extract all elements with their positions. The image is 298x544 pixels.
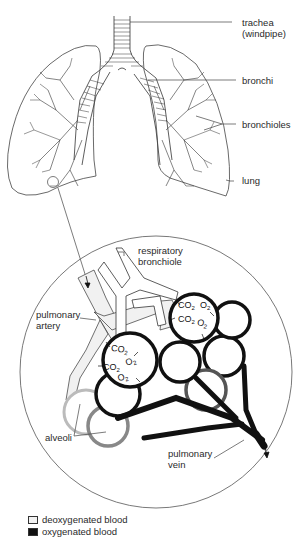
co2-label: CO2 [178,300,195,313]
legend-item-deoxygenated: deoxygenated blood [28,514,128,525]
respiratory-bronchiole-label-1: respiratory [138,245,183,256]
bronchioles-leader [196,116,236,130]
left-lung-outline [7,45,100,195]
legend-label: oxygenated blood [42,526,117,537]
lung-label: lung [242,175,260,186]
pulmonary-artery-label-1: pulmonary [36,309,80,320]
co2-label: CO2 [110,343,128,358]
legend-item-oxygenated: oxygenated blood [28,526,117,537]
alveoli-label: alveoli [45,432,72,443]
trachea-label: trachea [242,17,274,28]
pulmonary-vein-leader [214,440,244,458]
lung-leader [226,180,234,181]
respiratory-bronchiole-label-2: bronchiole [138,256,182,267]
windpipe-label: (windpipe) [242,28,286,39]
right-lung-outline [143,45,229,196]
bronchioles-label: bronchioles [242,119,291,130]
pulmonary-artery-label-2: artery [36,320,60,331]
bronchi-label: bronchi [242,75,273,86]
legend-label: deoxygenated blood [42,514,128,525]
deoxygenated-swatch [28,516,38,524]
oxygenated-swatch [28,528,38,536]
right-bronchiole-tree [154,58,220,186]
pulmonary-vein-label-2: vein [168,459,185,470]
left-bronchiole-tree [24,58,90,186]
o2-label: O2 [200,300,210,313]
co2-label: CO2 [178,314,195,327]
pulmonary-vein-label-1: pulmonary [168,448,212,459]
pulmonary-artery-leader [80,318,96,320]
